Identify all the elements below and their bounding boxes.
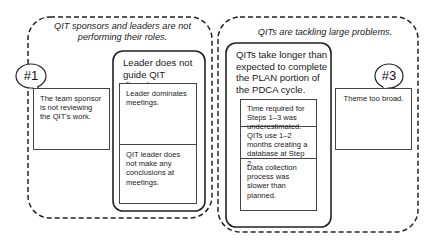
badge-1-label: #1 [16,68,46,83]
badge-3-box: Theme too broad. [335,88,412,150]
group-1-title: QIT sponsors and leaders are not perform… [40,21,205,43]
group-1-cause-items: Leader dominates meetings. QIT leader do… [119,83,197,204]
cause-item: QIT leader does not make any conclusions… [120,144,196,203]
group-2-title: QITs are tackling large problems. [240,27,410,38]
cause-item: Time required for Steps 1–3 was underest… [241,100,316,126]
badge-3-label: #3 [375,68,403,83]
cause-item: QITs use 1–2 months creating a database … [241,126,316,158]
cause-item: Leader dominates meetings. [120,84,196,144]
badge-3-text: Theme too broad. [336,89,411,108]
cause-item: Data collection process was slower than … [241,158,316,210]
badge-1-box: The team sponsor is not reviewing the QI… [33,88,110,150]
group-2-cause-title: QITs take longer than expected to comple… [236,49,331,95]
badge-1-text: The team sponsor is not reviewing the QI… [34,89,109,127]
group-2-cause-items: Time required for Steps 1–3 was underest… [240,99,317,211]
